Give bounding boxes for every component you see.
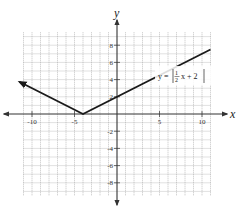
x-tick-label: 10 <box>199 118 207 126</box>
y-tick-label: 8 <box>110 42 114 50</box>
x-tick-label: -5 <box>72 118 78 126</box>
equation-prefix: y = <box>158 72 169 81</box>
y-axis-label: y <box>113 6 120 20</box>
y-tick-label: -4 <box>107 145 113 153</box>
x-tick-label: 5 <box>158 118 162 126</box>
graph: -10-55108642-2-4-6-8 y x y = 1 2 x + 2 <box>0 0 240 215</box>
y-tick-label: -8 <box>107 179 113 187</box>
equation-label: y = 1 2 x + 2 <box>155 66 213 85</box>
y-tick-label: 4 <box>110 76 114 84</box>
x-tick-label: -10 <box>27 118 37 126</box>
y-tick-label: -2 <box>107 128 113 136</box>
x-axis-label: x <box>229 107 236 121</box>
equation-suffix: x + 2 <box>181 72 198 81</box>
equation-denominator: 2 <box>175 77 178 83</box>
y-tick-label: 6 <box>110 59 114 67</box>
y-tick-label: -6 <box>107 162 113 170</box>
equation-numerator: 1 <box>175 70 178 76</box>
